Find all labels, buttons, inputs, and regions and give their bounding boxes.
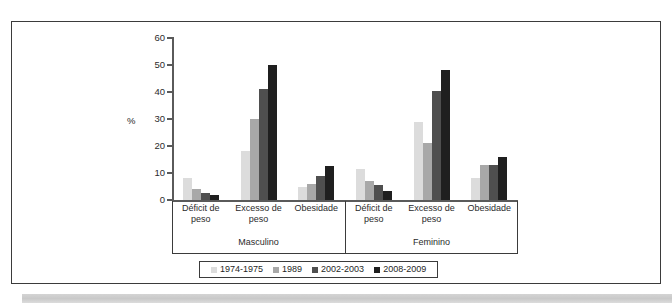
legend-swatch-icon xyxy=(273,267,279,273)
legend-label: 2002-2003 xyxy=(321,265,364,274)
legend-label: 1989 xyxy=(282,265,302,274)
legend-item: 2008-2009 xyxy=(374,265,426,274)
legend-item: 1989 xyxy=(273,265,302,274)
legend-item: 1974-1975 xyxy=(211,265,263,274)
chart-legend: 1974-197519892002-20032008-2009 xyxy=(199,261,438,278)
bottom-decoration-band xyxy=(22,294,672,303)
legend-label: 2008-2009 xyxy=(383,265,426,274)
legend-swatch-icon xyxy=(211,267,217,273)
legend-label: 1974-1975 xyxy=(220,265,263,274)
figure-frame xyxy=(11,21,661,284)
legend-swatch-icon xyxy=(312,267,318,273)
legend-swatch-icon xyxy=(374,267,380,273)
legend-item: 2002-2003 xyxy=(312,265,364,274)
